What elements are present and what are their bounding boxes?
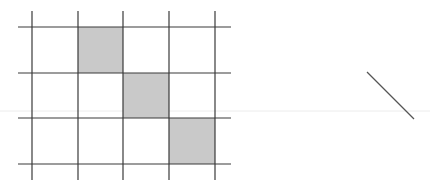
shaded-cells (78, 27, 215, 164)
shaded-cell (169, 118, 215, 164)
shaded-cell (78, 27, 123, 73)
grid-diagram (0, 0, 430, 188)
diagonal-segment (367, 72, 414, 119)
shaded-cell (123, 73, 169, 118)
